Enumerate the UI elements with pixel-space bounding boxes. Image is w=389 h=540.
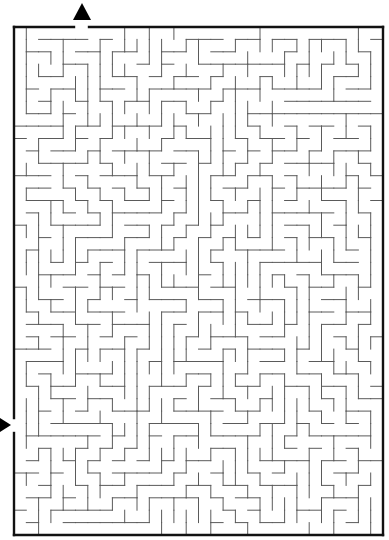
maze-walls (14, 27, 383, 535)
entrance-arrow-right-icon (0, 418, 11, 432)
exit-arrow-up-icon (73, 3, 91, 20)
maze-board (0, 0, 389, 540)
